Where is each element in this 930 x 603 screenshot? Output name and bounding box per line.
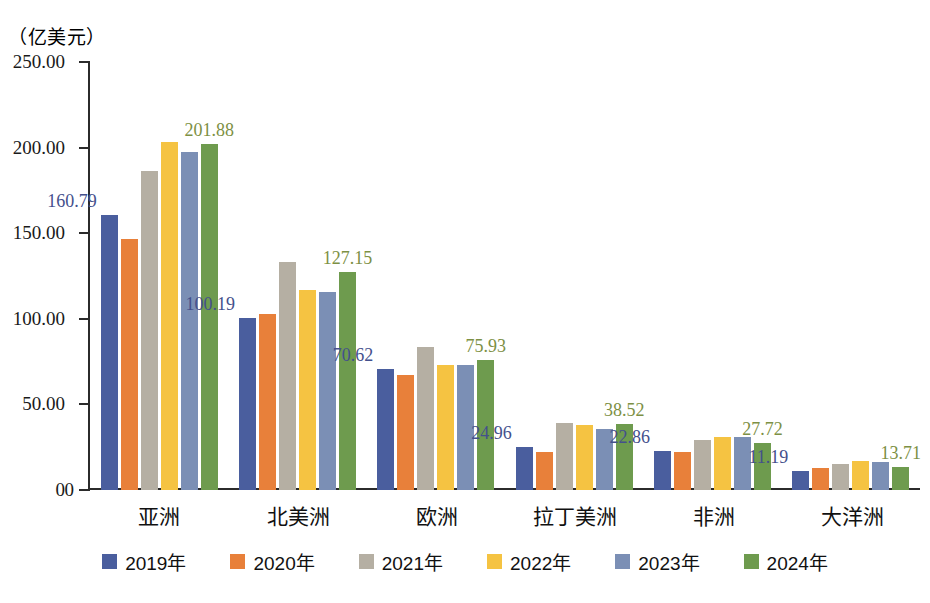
- bar-2019年-亚洲[interactable]: 160.79: [101, 215, 118, 490]
- bar-group: 160.79201.88: [90, 62, 228, 490]
- bar-2022年-非洲[interactable]: [714, 437, 731, 490]
- bar-2021年-大洋洲[interactable]: [832, 464, 849, 490]
- bar-2022年-拉丁美洲[interactable]: [576, 425, 593, 490]
- bar-value-label: 24.96: [471, 424, 512, 442]
- legend-label: 2024年: [767, 548, 828, 575]
- y-axis-unit-caption: （亿美元）: [8, 22, 106, 49]
- legend-item-2024年[interactable]: 2024年: [744, 548, 828, 575]
- bar-value-label: 127.15: [323, 249, 373, 267]
- legend-swatch-icon: [487, 554, 502, 569]
- bar-2021年-北美洲[interactable]: [279, 262, 296, 490]
- legend-swatch-icon: [744, 554, 759, 569]
- bar-value-label: 201.88: [184, 121, 234, 139]
- bar-2023年-大洋洲[interactable]: [872, 462, 889, 490]
- bar-groups: 160.79201.88100.19127.1570.6275.9324.963…: [90, 62, 920, 490]
- bar-2021年-非洲[interactable]: [694, 440, 711, 490]
- category-label-北美洲: 北美洲: [229, 500, 368, 530]
- legend-label: 2020年: [253, 548, 314, 575]
- bar-2019年-大洋洲[interactable]: 11.19: [792, 471, 809, 490]
- bar-2021年-欧洲[interactable]: [417, 347, 434, 490]
- bar-2019年-非洲[interactable]: 22.86: [654, 451, 671, 490]
- category-label-亚洲: 亚洲: [90, 500, 229, 530]
- y-tick-200.00: 200.00: [79, 147, 90, 149]
- legend-swatch-icon: [615, 554, 630, 569]
- y-tick-label: 150.00: [13, 222, 65, 244]
- legend-swatch-icon: [102, 554, 117, 569]
- bar-2019年-欧洲[interactable]: 70.62: [377, 369, 394, 490]
- bar-value-label: 100.19: [185, 295, 235, 313]
- y-tick-label: 50.00: [22, 393, 65, 415]
- bar-value-label: 13.71: [881, 444, 922, 462]
- bar-2023年-北美洲[interactable]: [319, 292, 336, 490]
- legend-label: 2022年: [510, 548, 571, 575]
- category-label-拉丁美洲: 拉丁美洲: [506, 500, 645, 530]
- legend-label: 2021年: [382, 548, 443, 575]
- legend-label: 2019年: [125, 548, 186, 575]
- legend-item-2022年[interactable]: 2022年: [487, 548, 571, 575]
- y-tick-150.00: 150.00: [79, 232, 90, 234]
- bar-value-label: 160.79: [47, 192, 97, 210]
- bar-2024年-北美洲[interactable]: 127.15: [339, 272, 356, 490]
- bar-2020年-欧洲[interactable]: [397, 375, 414, 490]
- bar-group: 24.9638.52: [505, 62, 643, 490]
- bar-group: 11.1913.71: [782, 62, 920, 490]
- y-tick-50.00: 50.00: [79, 403, 90, 405]
- bar-value-label: 22.86: [609, 428, 650, 446]
- bar-2021年-亚洲[interactable]: [141, 171, 158, 490]
- bar-group: 100.19127.15: [228, 62, 366, 490]
- bar-2023年-亚洲[interactable]: [181, 152, 198, 490]
- bar-2019年-拉丁美洲[interactable]: 24.96: [516, 447, 533, 490]
- legend-item-2020年[interactable]: 2020年: [230, 548, 314, 575]
- bar-2024年-亚洲[interactable]: 201.88: [201, 144, 218, 490]
- bar-2020年-北美洲[interactable]: [259, 314, 276, 490]
- bar-2022年-亚洲[interactable]: [161, 142, 178, 490]
- bar-2022年-大洋洲[interactable]: [852, 461, 869, 490]
- y-tick-0: 0: [79, 489, 90, 491]
- legend-label: 2023年: [638, 548, 699, 575]
- bar-value-label: 75.93: [466, 337, 507, 355]
- legend-item-2019年[interactable]: 2019年: [102, 548, 186, 575]
- x-axis-category-labels: 亚洲北美洲欧洲拉丁美洲非洲大洋洲: [90, 500, 922, 530]
- plot-area: 050.00100.00150.00200.00250.00 160.79201…: [88, 62, 920, 490]
- y-tick-100.00: 100.00: [79, 318, 90, 320]
- legend-swatch-icon: [230, 554, 245, 569]
- bar-2021年-拉丁美洲[interactable]: [556, 423, 573, 490]
- bar-value-label: 38.52: [604, 401, 645, 419]
- bar-2020年-非洲[interactable]: [674, 452, 691, 490]
- category-label-非洲: 非洲: [645, 500, 784, 530]
- bar-2020年-大洋洲[interactable]: [812, 468, 829, 490]
- bar-2024年-大洋洲[interactable]: 13.71: [892, 467, 909, 490]
- bar-value-label: 27.72: [742, 420, 783, 438]
- legend-item-2023年[interactable]: 2023年: [615, 548, 699, 575]
- bar-2020年-亚洲[interactable]: [121, 239, 138, 490]
- bar-value-label: 11.19: [748, 448, 788, 466]
- y-tick-label-zero: 0: [65, 479, 75, 501]
- bar-group: 22.8627.72: [643, 62, 781, 490]
- category-label-欧洲: 欧洲: [367, 500, 506, 530]
- legend: 2019年2020年2021年2022年2023年2024年: [0, 548, 930, 575]
- bar-2022年-北美洲[interactable]: [299, 290, 316, 490]
- y-tick-250.00: 250.00: [79, 61, 90, 63]
- y-tick-label: 100.00: [13, 308, 65, 330]
- bar-value-label: 70.62: [333, 346, 374, 364]
- bar-chart: （亿美元） 050.00100.00150.00200.00250.00 160…: [0, 0, 930, 603]
- y-tick-label: 250.00: [13, 51, 65, 73]
- bar-2019年-北美洲[interactable]: 100.19: [239, 318, 256, 490]
- legend-swatch-icon: [359, 554, 374, 569]
- bar-2020年-拉丁美洲[interactable]: [536, 452, 553, 490]
- legend-item-2021年[interactable]: 2021年: [359, 548, 443, 575]
- category-label-大洋洲: 大洋洲: [783, 500, 922, 530]
- y-tick-label: 200.00: [13, 137, 65, 159]
- bar-2022年-欧洲[interactable]: [437, 365, 454, 490]
